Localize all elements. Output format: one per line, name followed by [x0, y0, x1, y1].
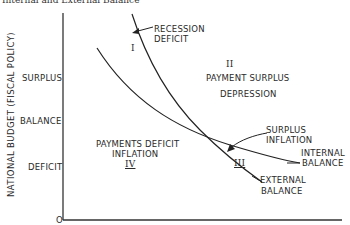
y-axis-label: NATIONAL BUDGET (FISCAL POLICY): [6, 47, 16, 197]
external-balance-label-line1: EXTERNAL: [260, 175, 306, 185]
region-ii-numeral: II: [226, 59, 234, 69]
region-ii-label-line2: DEPRESSION: [220, 89, 277, 99]
region-iii-label-line1: SURPLUS: [266, 125, 306, 135]
region-iii-numeral: III: [234, 158, 245, 168]
region-iv-label-line1: PAYMENTS DEFICIT: [96, 139, 179, 149]
y-tick-balance: BALANCE: [20, 116, 61, 126]
external-balance-label-line2: BALANCE: [261, 186, 302, 196]
region-iii-label-line2: INFLATION: [266, 135, 312, 145]
region-ii-label-line1: PAYMENT SURPLUS: [206, 73, 289, 83]
recession-arrow: [138, 27, 153, 31]
internal-balance-label-line2: BALANCE: [302, 158, 343, 168]
y-tick-surplus: SURPLUS: [22, 73, 62, 83]
internal-balance-label-line1: INTERNAL: [301, 148, 345, 158]
origin-label: O: [56, 215, 63, 225]
recession-arrowhead: [132, 28, 139, 34]
region-iv-label-line2: INFLATION: [112, 149, 158, 159]
region-i-numeral: I: [131, 43, 135, 53]
region-iv-numeral: IV: [125, 159, 135, 169]
y-tick-deficit: DEFICIT: [28, 162, 62, 172]
region-i-label-line2: DEFICIT: [154, 34, 188, 44]
surplus-inflation-arrow: [232, 133, 267, 147]
region-i-label-line1: RECESSION: [154, 24, 205, 34]
